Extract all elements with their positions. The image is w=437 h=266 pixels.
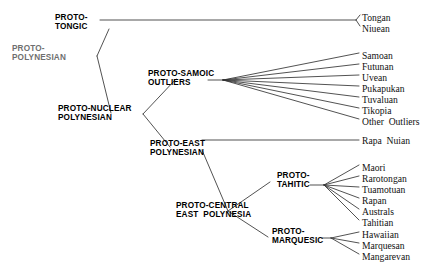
node-label-proto-east-polynesian: PROTO-EASTPOLYNESIAN xyxy=(150,139,205,158)
leaf-label-rarotongan: Rarotongan xyxy=(362,174,407,185)
node-label-line-2: POLYNESIAN xyxy=(58,113,132,122)
node-label-proto-tongic: PROTO-TONGIC xyxy=(55,13,88,32)
node-label-proto-tahitic: PROTO-TAHITIC xyxy=(277,171,310,190)
branch-samoic-to-tuvaluan xyxy=(223,80,359,97)
leaf-label-niuean: Niuean xyxy=(362,24,390,35)
leaf-label-uvean: Uvean xyxy=(362,73,387,84)
branch-tahitic-to-rarotongan xyxy=(324,176,359,185)
branch-samoic-to-other-outliers xyxy=(223,80,359,119)
node-label-line-2: MARQUESIC xyxy=(272,236,323,245)
node-label-line-1: PROTO- xyxy=(272,227,323,236)
leaf-label-mangarevan: Mangarevan xyxy=(362,252,410,263)
node-label-line-2: POLYNESIAN xyxy=(12,53,66,62)
branch-samoic-to-tikopia xyxy=(223,80,359,108)
branch-tongic-to-tongan xyxy=(356,15,360,20)
node-label-line-1: PROTO- xyxy=(277,171,310,180)
node-label-line-1: PROTO- xyxy=(55,13,88,22)
node-label-line-1: PROTO-CENTRAL xyxy=(176,201,251,210)
leaf-label-samoan: Samoan xyxy=(362,51,393,62)
node-label-proto-central-east-polynesia: PROTO-CENTRALEAST POLYNESIA xyxy=(176,201,251,220)
leaf-label-australs: Australs xyxy=(362,207,394,218)
node-label-line-1: PROTO-NUCLEAR xyxy=(58,104,132,113)
node-label-proto-samoic-outliers: PROTO-SAMOICOUTLIERS xyxy=(148,69,214,88)
language-family-tree-figure: PROTO-POLYNESIANPROTO-TONGICPROTO-NUCLEA… xyxy=(0,0,437,266)
node-label-proto-polynesian: PROTO-POLYNESIAN xyxy=(12,44,66,63)
branch-tongic-to-niuean xyxy=(356,20,360,26)
node-label-line-1: PROTO- xyxy=(12,44,66,53)
node-label-line-2: TAHITIC xyxy=(277,180,310,189)
node-label-line-2: POLYNESIAN xyxy=(150,148,205,157)
node-label-proto-nuclear-polynesian: PROTO-NUCLEARPOLYNESIAN xyxy=(58,104,132,123)
branch-root-to-tongic xyxy=(97,29,109,56)
branch-tahitic-to-tahitian xyxy=(324,185,359,220)
leaf-label-tongan: Tongan xyxy=(362,13,391,24)
leaf-label-pukapukan: Pukapukan xyxy=(362,84,405,95)
leaf-label-maori: Maori xyxy=(362,163,385,174)
leaf-label-futunan: Futunan xyxy=(362,62,393,73)
leaf-label-marquesan: Marquesan xyxy=(362,241,405,252)
branch-tahitic-to-maori xyxy=(324,165,359,185)
leaf-label-rapa-nuian: Rapa Nuian xyxy=(362,136,410,147)
node-label-line-2: EAST POLYNESIA xyxy=(176,210,251,219)
leaf-label-hawaiian: Hawaiian xyxy=(362,230,399,241)
node-label-proto-marquesic: PROTO-MARQUESIC xyxy=(272,227,323,246)
leaf-label-other-outliers: Other Outliers xyxy=(362,117,420,128)
branch-tahitic-to-australs xyxy=(324,185,359,209)
leaf-label-tuvaluan: Tuvaluan xyxy=(362,95,398,106)
node-label-line-2: OUTLIERS xyxy=(148,78,214,87)
leaf-label-tikopia: Tikopia xyxy=(362,106,392,117)
leaf-label-tuamotuan: Tuamotuan xyxy=(362,185,405,196)
branch-marquesic-to-hawaiian xyxy=(331,232,359,238)
leaf-label-tahitian: Tahitian xyxy=(362,218,393,229)
node-label-line-1: PROTO-SAMOIC xyxy=(148,69,214,78)
node-label-line-2: TONGIC xyxy=(55,22,88,31)
leaf-label-rapan: Rapan xyxy=(362,196,387,207)
branch-samoic-to-pukapukan xyxy=(223,80,359,86)
node-label-line-1: PROTO-EAST xyxy=(150,139,205,148)
